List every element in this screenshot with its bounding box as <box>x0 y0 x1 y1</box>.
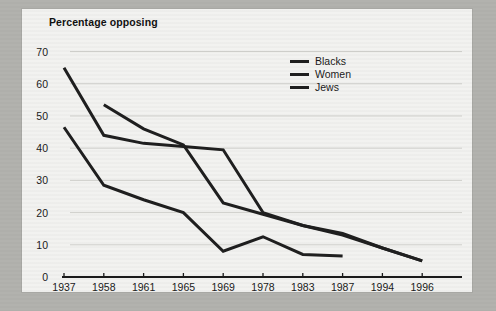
y-tick-label: 10 <box>26 239 48 251</box>
legend-label: Women <box>315 68 351 81</box>
legend-item-blacks: Blacks <box>290 55 351 68</box>
x-tick-label: 1965 <box>172 281 195 293</box>
y-tick-label: 0 <box>26 271 48 283</box>
legend-swatch-icon <box>290 73 309 76</box>
line-chart-plot <box>22 9 472 292</box>
y-tick-label: 60 <box>26 78 48 90</box>
y-tick-label: 70 <box>26 46 48 58</box>
x-tick-label: 1969 <box>212 281 235 293</box>
y-tick-label: 30 <box>26 174 48 186</box>
x-tick-label: 1987 <box>331 281 354 293</box>
x-tick-label: 1996 <box>411 281 434 293</box>
x-tick-label: 1994 <box>371 281 394 293</box>
series-line-jews <box>64 127 343 256</box>
series-line-blacks <box>64 68 422 261</box>
x-tick-label: 1937 <box>52 281 75 293</box>
legend-label: Blacks <box>315 55 346 68</box>
y-tick-label: 20 <box>26 207 48 219</box>
legend-label: Jews <box>315 81 339 94</box>
x-tick-label: 1958 <box>92 281 115 293</box>
y-tick-label: 40 <box>26 142 48 154</box>
series-layer <box>64 68 422 261</box>
legend-item-women: Women <box>290 68 351 81</box>
y-tick-label: 50 <box>26 110 48 122</box>
chart-legend: BlacksWomenJews <box>290 55 351 94</box>
legend-item-jews: Jews <box>290 81 351 94</box>
x-tick-label: 1961 <box>132 281 155 293</box>
x-tick-label: 1983 <box>291 281 314 293</box>
legend-swatch-icon <box>290 60 309 63</box>
chart-panel: Percentage opposing 010203040506070 1937… <box>22 9 472 292</box>
legend-swatch-icon <box>290 86 309 89</box>
x-tick-label: 1978 <box>251 281 274 293</box>
screenshot-root: Percentage opposing 010203040506070 1937… <box>0 0 496 311</box>
y-axis-tick-labels: 010203040506070 <box>22 9 48 292</box>
